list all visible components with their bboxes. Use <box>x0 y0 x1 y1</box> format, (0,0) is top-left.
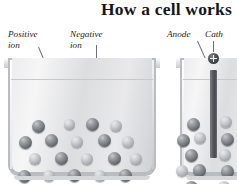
ion-sphere-light <box>219 149 231 161</box>
ion-sphere-light <box>110 120 122 132</box>
ion-sphere-dark <box>32 120 45 133</box>
right-beaker <box>180 58 237 176</box>
liquid-surface-line <box>11 79 153 80</box>
beaker-base-shadow <box>186 176 237 180</box>
figure-canvas: How a cell works Positive ion Negative i… <box>0 0 237 184</box>
ion-sphere-dark <box>221 133 234 146</box>
ion-sphere-dark <box>193 164 206 177</box>
electrode-rod <box>210 70 217 158</box>
plus-vertical-bar <box>213 55 214 62</box>
label-positive-ion-line2: ion <box>8 40 38 51</box>
beaker-rim-left <box>4 58 8 68</box>
ion-sphere-dark <box>108 152 121 165</box>
ion-sphere-light <box>71 136 83 148</box>
label-anode: Anode <box>167 29 190 40</box>
ion-sphere-light <box>130 153 142 165</box>
ion-sphere-dark <box>185 149 198 162</box>
ion-sphere-light <box>29 153 41 165</box>
ion-sphere-dark <box>185 181 198 185</box>
positive-terminal-icon <box>208 53 219 64</box>
beaker-rim-right <box>156 58 160 68</box>
label-negative-ion: Negative ion <box>70 29 103 50</box>
beaker-rim-left <box>176 58 180 68</box>
ion-sphere-light <box>122 136 134 148</box>
beaker-base-shadow <box>14 176 150 180</box>
figure-title: How a cell works <box>101 0 232 20</box>
left-beaker <box>8 58 156 176</box>
label-negative-ion-line2: ion <box>70 40 103 51</box>
ion-sphere-light <box>194 132 206 144</box>
ion-sphere-dark <box>45 134 58 147</box>
ion-sphere-light <box>64 119 75 130</box>
ion-sphere-dark <box>98 134 111 147</box>
label-cathode: Cath <box>205 29 223 40</box>
leader-line-cathode <box>213 41 214 52</box>
ion-sphere-dark <box>86 118 99 131</box>
ion-sphere-dark <box>55 152 68 165</box>
ion-sphere-dark <box>19 136 32 149</box>
ion-sphere-light <box>220 116 232 128</box>
ion-sphere-light <box>218 181 230 184</box>
label-positive-ion: Positive ion <box>8 29 38 50</box>
ion-sphere-light <box>81 153 93 165</box>
ion-sphere-dark <box>187 118 200 131</box>
label-positive-ion-line1: Positive <box>8 29 38 39</box>
label-negative-ion-line1: Negative <box>70 29 103 39</box>
ion-sphere-dark <box>177 134 190 147</box>
